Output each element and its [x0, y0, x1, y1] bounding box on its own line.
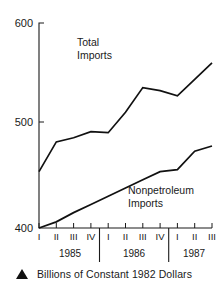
y-axis-label-500: 500 [15, 116, 33, 128]
x-tick-label-8: IV [156, 231, 166, 242]
series-label-total-imports-line1: Total [77, 36, 99, 48]
axis-frame [39, 23, 212, 228]
triangle-up-icon [16, 269, 28, 279]
x-axis-year-label-1985: 1985 [59, 248, 82, 259]
line-chart-svg: 600 500 400 I II III IV I II III IV I II… [0, 0, 224, 293]
imports-chart-figure: 600 500 400 I II III IV I II III IV I II… [0, 0, 224, 293]
y-axis-label-600: 600 [15, 17, 33, 29]
series-label-nonpetroleum-imports-line1: Nonpetroleum [128, 184, 194, 196]
x-axis-year-label-1987: 1987 [183, 248, 206, 259]
x-tick-label-2: II [54, 231, 59, 242]
x-tick-label-7: III [139, 231, 147, 242]
x-tick-label-4: IV [86, 231, 96, 242]
x-tick-label-3: III [70, 231, 78, 242]
x-tick-label-9: I [176, 231, 179, 242]
y-axis-label-400: 400 [15, 222, 33, 234]
series-label-total-imports-line2: Imports [77, 49, 112, 61]
figure-caption: Billions of Constant 1982 Dollars [16, 268, 192, 280]
series-line-total-imports [39, 63, 212, 172]
x-axis-year-label-1986: 1986 [123, 248, 146, 259]
figure-caption-text: Billions of Constant 1982 Dollars [37, 268, 192, 280]
x-tick-label-10: II [192, 231, 197, 242]
series-label-nonpetroleum-imports-line2: Imports [128, 197, 163, 209]
x-tick-label-1: I [38, 231, 41, 242]
x-tick-label-5: I [107, 231, 110, 242]
x-tick-label-6: II [123, 231, 128, 242]
x-tick-label-11: III [208, 231, 216, 242]
